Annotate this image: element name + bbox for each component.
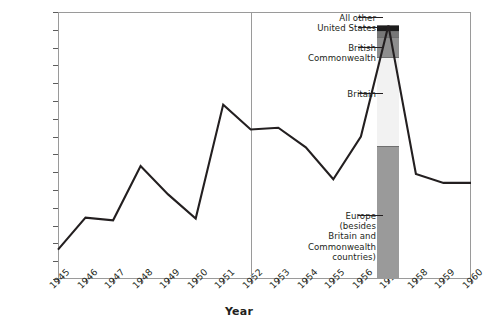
callout-united-states-leader xyxy=(358,27,383,28)
callout-britain-leader xyxy=(358,93,383,94)
callout-united-states: United States xyxy=(317,23,376,33)
callout-all-other: All other xyxy=(339,13,376,23)
callout-british-commonwealth-leader xyxy=(358,47,383,48)
callout-europe-leader xyxy=(358,215,383,216)
callout-europe: Europe (besides Britain and Commonwealth… xyxy=(308,211,376,262)
callout-all-other-leader xyxy=(358,17,383,18)
callout-britain: Britain xyxy=(347,89,376,99)
x-axis-title: Year xyxy=(0,305,478,318)
